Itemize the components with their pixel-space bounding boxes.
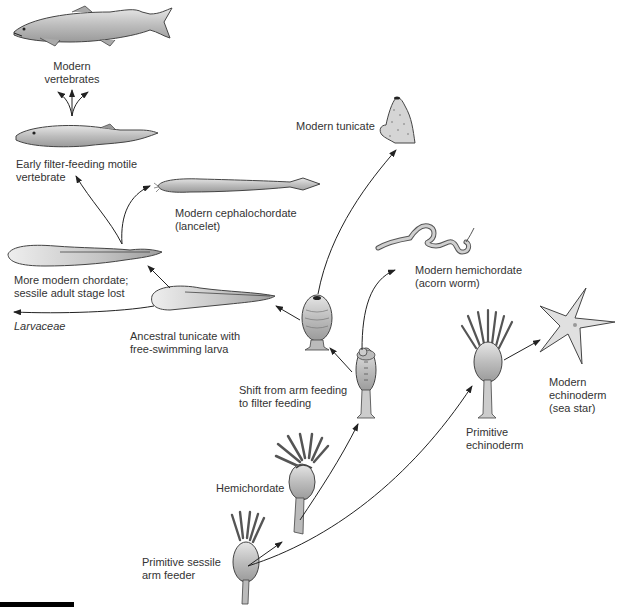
arrow-to-sea-star (504, 340, 540, 360)
arrow-to-modern-hemichordate (362, 270, 395, 350)
arrow-to-sessile-tunicate (330, 348, 352, 372)
label-more-modern-chordate: More modern chordate; sessile adult stag… (14, 274, 128, 300)
label-modern-cephalochordate: Modern cephalochordate (lancelet) (175, 207, 297, 233)
arrow-to-primitive-echinoderm (248, 386, 472, 566)
transitional-filter-feeder-illustration (356, 348, 376, 418)
arrow-to-larvaceae (14, 306, 154, 313)
salmon-illustration (14, 6, 172, 46)
label-modern-tunicate: Modern tunicate (296, 120, 375, 133)
more-modern-chordate-illustration (8, 245, 162, 266)
diagram-canvas (0, 0, 622, 607)
acorn-worm-illustration (378, 226, 474, 252)
arrow-to-early-vertebrate (76, 176, 122, 244)
lancelet-illustration (154, 178, 320, 192)
label-ancestral-tunicate: Ancestral tunicate with free-swimming la… (130, 330, 240, 356)
arrow-to-ancestral-tunicate (276, 306, 300, 320)
sessile-tunicate-illustration (302, 295, 332, 350)
early-vertebrate-illustration (16, 124, 158, 147)
arrow-to-more-modern-chordate (148, 266, 170, 288)
arrow-to-vertebrates-right (72, 92, 88, 116)
primitive-echinoderm-illustration (462, 310, 512, 418)
label-modern-hemichordate: Modern hemichordate (acorn worm) (415, 264, 522, 290)
label-modern-echinoderm: Modern echinoderm (sea star) (549, 376, 606, 415)
label-larvaceae: Larvaceae (14, 320, 65, 333)
arrow-to-vertebrates-left (58, 92, 72, 116)
label-primitive-arm-feeder: Primitive sessile arm feeder (142, 556, 221, 582)
tunicate-larva-illustration (152, 286, 275, 310)
label-early-vertebrate: Early filter-feeding motile vertebrate (16, 158, 137, 184)
label-shift-feeding: Shift from arm feeding to filter feeding (239, 384, 347, 410)
arrow-to-lancelet (122, 186, 150, 244)
label-modern-vertebrates: Modern vertebrates (30, 60, 114, 86)
sea-star-illustration (540, 288, 615, 364)
arrow-to-modern-tunicate (318, 150, 396, 294)
modern-tunicate-illustration (380, 96, 415, 143)
scale-bar (0, 602, 74, 607)
label-hemichordate: Hemichordate (216, 482, 284, 495)
label-primitive-echinoderm: Primitive echinoderm (466, 426, 523, 452)
